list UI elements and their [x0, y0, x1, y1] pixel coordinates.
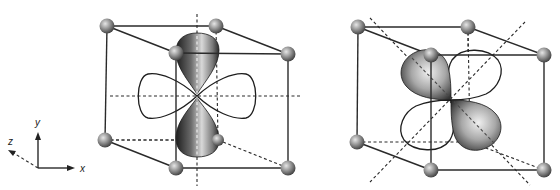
ligand-atom	[281, 47, 296, 62]
ligand-atom	[537, 48, 552, 63]
right-cube-panel	[350, 18, 552, 185]
ligand-atom	[424, 48, 439, 63]
ligand-atom	[212, 134, 224, 146]
ligand-atom	[351, 20, 366, 35]
ligand-atom	[169, 46, 184, 61]
ligand-atom	[169, 161, 184, 176]
z-axis-label: z	[7, 136, 13, 147]
outlined-lobe-upper-right	[448, 50, 501, 100]
axis-indicator: y x z	[7, 117, 86, 174]
x-axis-label: x	[79, 163, 86, 174]
ligand-atom	[424, 163, 439, 178]
left-cube-panel	[98, 14, 301, 186]
ligand-atom	[281, 161, 296, 176]
ligand-atom	[461, 20, 476, 35]
orbital-diagram: y x z	[0, 0, 560, 190]
ligand-atom	[98, 133, 113, 148]
ligand-atom	[209, 19, 224, 34]
y-axis-label: y	[34, 117, 41, 128]
ligand-atom	[350, 135, 365, 150]
ligand-atom	[537, 163, 552, 178]
ligand-atom	[100, 19, 115, 34]
